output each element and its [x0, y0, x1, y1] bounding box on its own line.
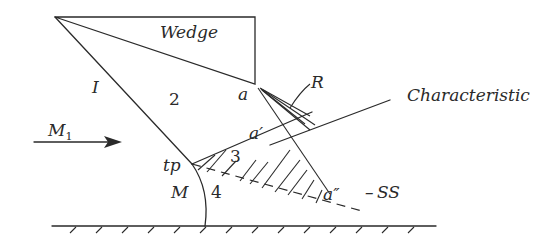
region-2-label: 2 [169, 91, 180, 108]
corner-a-label: a [238, 86, 248, 103]
slipstream-label: – SS [365, 184, 400, 201]
rarefaction-label: R [311, 74, 324, 91]
rarefaction-leader [290, 84, 310, 108]
wedge-label: Wedge [160, 24, 218, 41]
characteristic-label: Characteristic [407, 87, 530, 104]
freestream-mach-label: M1 [48, 122, 72, 142]
wedge-outline [55, 17, 255, 84]
point-a-double-prime-label: a″ [323, 186, 340, 203]
mach-stem-label: M [171, 184, 188, 201]
region-4-label: 4 [211, 184, 222, 201]
triple-point-label: tp [163, 157, 181, 174]
region-3-label: 3 [230, 148, 241, 165]
point-a-prime-label: a′ [249, 125, 263, 142]
diagram-lines [0, 0, 555, 252]
wall-hatching [70, 227, 414, 233]
mach-stem [192, 164, 206, 226]
shock-wave-diagram: Wedge I 2 a R Characteristic M1 tp a′ 3 … [0, 0, 555, 252]
region-1-label: I [92, 79, 99, 96]
